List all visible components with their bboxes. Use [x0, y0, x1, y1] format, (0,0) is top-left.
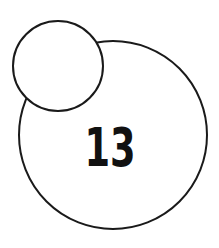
small-circle	[13, 21, 103, 111]
circle-diagram: 13	[0, 0, 219, 248]
large-circle-label: 13	[84, 117, 135, 179]
